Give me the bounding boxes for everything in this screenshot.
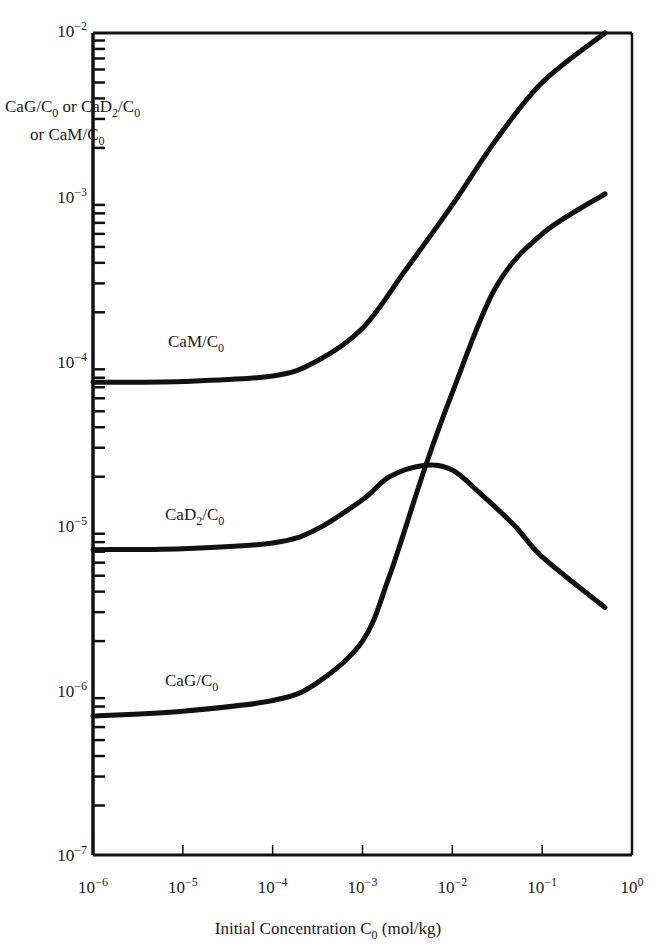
x-tick-label: 10−1 bbox=[527, 875, 557, 897]
y-axis-title: CaG/C0 or CaD2/C0or CaM/C0 bbox=[5, 97, 140, 148]
series-label: CaM/C0 bbox=[168, 332, 224, 355]
plot-frame bbox=[93, 33, 632, 855]
series-label: CaG/C0 bbox=[165, 671, 218, 694]
x-axis-tick-labels: 10−610−510−410−310−210−1100 bbox=[78, 875, 643, 897]
x-tick-label: 10−4 bbox=[258, 875, 288, 897]
series-labels: CaM/C0CaD2/C0CaG/C0 bbox=[165, 332, 224, 694]
data-series bbox=[93, 33, 605, 716]
y-axis-title-line: CaG/C0 or CaD2/C0 bbox=[5, 97, 140, 120]
y-tick-label: 10−3 bbox=[57, 185, 87, 207]
chart-canvas: 10−210−310−410−510−610−7 10−610−510−410−… bbox=[0, 0, 656, 946]
series-line-cam-c0 bbox=[93, 33, 605, 382]
y-tick-label: 10−2 bbox=[57, 19, 87, 41]
y-tick-label: 10−6 bbox=[57, 679, 87, 701]
y-tick-label: 10−7 bbox=[57, 843, 87, 865]
y-tick-label: 10−5 bbox=[57, 514, 87, 536]
x-axis-title: Initial Concentration C0 (mol/kg) bbox=[215, 919, 442, 942]
x-tick-label: 10−2 bbox=[437, 875, 467, 897]
x-tick-label: 10−6 bbox=[78, 875, 108, 897]
series-label: CaD2/C0 bbox=[165, 505, 224, 528]
x-tick-label: 10−5 bbox=[168, 875, 198, 897]
x-tick-label: 100 bbox=[621, 875, 644, 897]
y-axis-tick-labels: 10−210−310−410−510−610−7 bbox=[57, 19, 87, 865]
x-tick-label: 10−3 bbox=[348, 875, 378, 897]
y-axis-ticks bbox=[93, 41, 105, 806]
series-line-cad2-c0 bbox=[93, 465, 605, 608]
series-line-cag-c0 bbox=[93, 194, 605, 716]
y-tick-label: 10−4 bbox=[57, 350, 87, 372]
